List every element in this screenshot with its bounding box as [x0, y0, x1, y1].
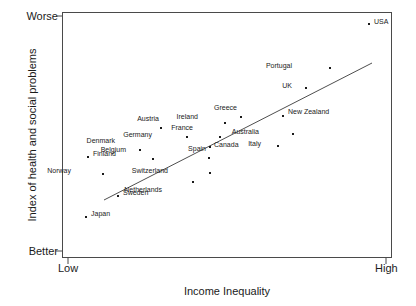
- data-point-label: Greece: [214, 104, 237, 112]
- data-point-label: Netherlands: [124, 186, 162, 194]
- data-point-label: Germany: [123, 131, 152, 139]
- plot-area: [62, 12, 392, 258]
- x-axis-left-tick-label: Low: [58, 262, 78, 274]
- data-point-label: Spain: [188, 145, 206, 153]
- data-point-label: Belgium: [101, 146, 126, 154]
- data-point-label: Japan: [91, 210, 110, 218]
- data-point-label: Ireland: [177, 113, 198, 121]
- y-axis-title: Index of health and social problems: [26, 10, 38, 260]
- data-point-label: Norway: [47, 167, 71, 175]
- data-point-label: USA: [374, 18, 388, 26]
- data-point-label: France: [171, 124, 193, 132]
- data-point-label: Canada: [214, 141, 239, 149]
- data-point-label: Italy: [248, 140, 261, 148]
- data-point-label: Australia: [232, 128, 259, 136]
- x-axis-title: Income Inequality: [62, 285, 392, 297]
- data-point-label: New Zealand: [288, 108, 329, 116]
- data-point-label: Denmark: [87, 137, 115, 145]
- data-point-label: UK: [282, 82, 292, 90]
- x-axis-right-tick-label: High: [375, 262, 398, 274]
- data-point-label: Portugal: [266, 62, 292, 70]
- data-point-label: Austria: [137, 115, 159, 123]
- scatter-chart: Worse Better Low High Income Inequality …: [0, 0, 416, 306]
- data-point-label: Switzerland: [132, 167, 168, 175]
